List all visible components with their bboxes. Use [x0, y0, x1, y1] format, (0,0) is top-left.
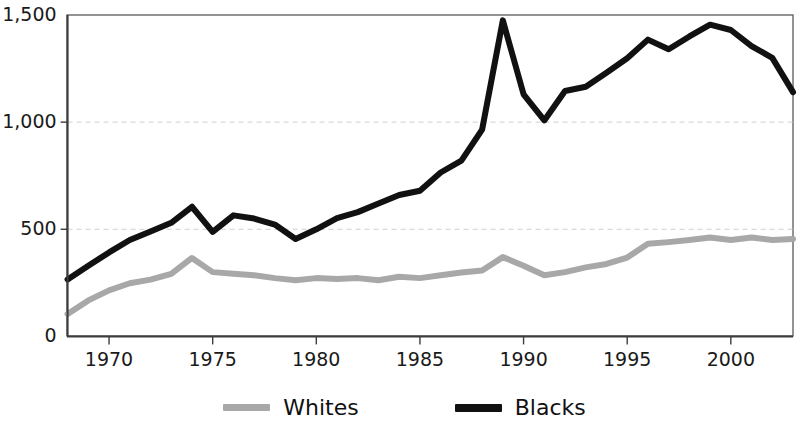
data-series-layer [68, 20, 793, 314]
x-tick-label: 2000 [691, 350, 771, 369]
y-tick-label: 500 [20, 219, 56, 238]
x-tick-label: 1995 [587, 350, 667, 369]
y-tick-label: 0 [45, 326, 57, 345]
gridlines [68, 122, 793, 229]
legend-item-whites[interactable]: Whites [223, 397, 358, 419]
chart-legend: Whites Blacks [0, 392, 809, 423]
line-swatch-gray-icon [223, 404, 270, 411]
legend-label-blacks: Blacks [515, 397, 586, 419]
legend-label-whites: Whites [283, 397, 358, 419]
plot-frame [67, 15, 793, 336]
series-line-whites [68, 237, 793, 314]
plot-border [67, 15, 793, 336]
x-tick-label: 1985 [380, 350, 460, 369]
chart-container: 1,5001,0005000 1970197519801985199019952… [0, 0, 809, 423]
y-tick-label: 1,000 [2, 112, 56, 131]
x-tick-label: 1980 [276, 350, 356, 369]
x-tick-label: 1970 [69, 350, 149, 369]
legend-item-blacks[interactable]: Blacks [455, 397, 586, 419]
x-axis-ticks [109, 336, 731, 344]
y-tick-label: 1,500 [2, 5, 56, 24]
x-tick-label: 1990 [484, 350, 564, 369]
line-swatch-black-icon [455, 404, 502, 412]
x-tick-label: 1975 [173, 350, 253, 369]
